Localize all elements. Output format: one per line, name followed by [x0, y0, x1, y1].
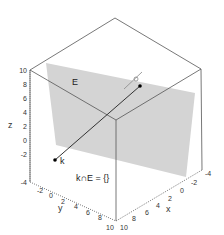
y-axis-label: y	[58, 203, 63, 213]
svg-text:8: 8	[23, 81, 27, 88]
svg-text:10: 10	[19, 67, 27, 74]
x-tick-labels: 10 8 6 4 2 0 -2 -4	[120, 170, 211, 231]
point-on-k	[138, 84, 142, 88]
x-axis-label: x	[166, 204, 171, 214]
svg-text:6: 6	[23, 95, 27, 102]
svg-text:8: 8	[132, 215, 136, 222]
svg-text:8: 8	[98, 214, 102, 221]
z-axis-label: z	[8, 120, 13, 130]
svg-text:2: 2	[23, 123, 27, 130]
svg-text:-4: -4	[21, 179, 27, 186]
svg-text:0: 0	[49, 192, 53, 199]
svg-text:10: 10	[106, 224, 114, 231]
svg-text:-4: -4	[205, 170, 211, 177]
plane-e	[46, 63, 195, 177]
svg-text:4: 4	[156, 202, 160, 209]
svg-text:-2: -2	[37, 187, 43, 194]
svg-text:2: 2	[168, 195, 172, 202]
svg-text:-2: -2	[191, 179, 197, 186]
svg-text:0: 0	[23, 137, 27, 144]
svg-text:0: 0	[180, 187, 184, 194]
line-label: k	[60, 156, 65, 166]
svg-text:6: 6	[86, 209, 90, 216]
plane-label: E	[72, 77, 78, 87]
y-tick-labels: -2 0 2 4 6 8 10	[37, 187, 114, 231]
svg-text:4: 4	[74, 203, 78, 210]
svg-text:-2: -2	[21, 151, 27, 158]
point-k	[53, 158, 57, 162]
svg-text:10: 10	[120, 224, 128, 231]
z-tick-labels: 10 8 6 4 2 0 -2 -4	[19, 67, 27, 186]
svg-text:6: 6	[145, 209, 149, 216]
svg-text:4: 4	[23, 109, 27, 116]
intersection-label: k∩E = {}	[76, 173, 109, 183]
3d-plot: E k k∩E = {} 10 8 6 4 2 0 -2 -4 z -2 0 2…	[0, 0, 224, 235]
